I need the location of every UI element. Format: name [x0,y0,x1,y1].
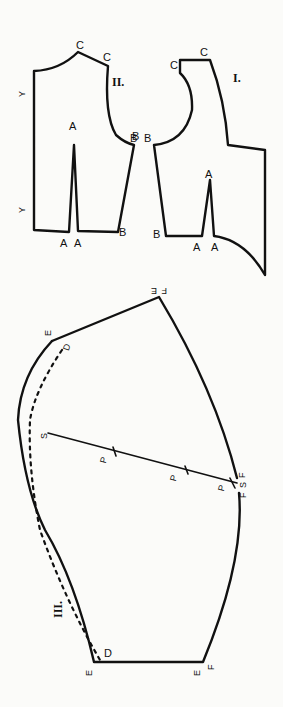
label-a: A [74,237,82,249]
piece-label-ii: II. [112,75,124,89]
label-s: S [39,433,49,439]
pattern-piece-ii: C C II. A B B A A Y Y [17,39,139,249]
label-b: B [144,132,151,144]
label-d: D [104,647,112,659]
label-b: B [130,132,137,144]
pattern-piece-iii: E D E F S P P P F S F III. D E E F [18,286,248,676]
label-e: E [151,286,157,296]
piece-label-iii: III. [51,601,65,618]
label-c: C [200,46,208,58]
piece-label-i: I. [233,71,241,85]
sewing-pattern-diagram: C C II. A B B A A Y Y C C I. B A B A A B… [0,0,283,707]
label-e: E [43,330,53,336]
label-a: A [60,237,68,249]
label-a: A [205,168,213,180]
label-a: A [193,241,201,253]
label-y: Y [17,91,27,97]
label-c: C [170,59,178,71]
label-f: F [206,664,216,670]
label-e: E [84,670,94,676]
label-a: A [211,241,219,253]
label-f: F [161,286,167,296]
label-p: P [168,474,179,482]
label-y: Y [17,207,27,213]
label-c: C [103,51,111,63]
label-a: A [69,120,77,132]
label-s: S [238,482,248,488]
label-f: F [238,492,248,498]
label-p: P [216,484,227,492]
label-p: P [98,456,109,464]
label-e: E [192,670,202,676]
label-b: B [119,226,126,238]
pattern-piece-i: C C I. B A B A A B [130,46,265,275]
label-b: B [153,228,160,240]
label-f: F [237,472,247,478]
label-c: C [76,39,84,51]
